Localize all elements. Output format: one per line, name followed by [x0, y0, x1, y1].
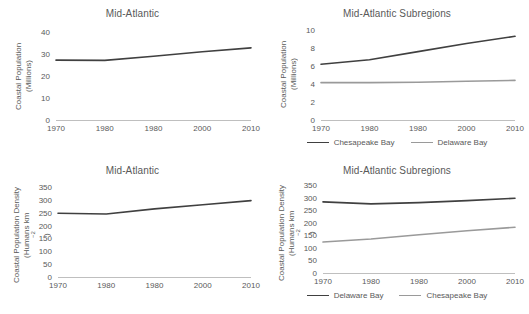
y-tick-label: 200: [304, 218, 317, 227]
series-lines: [321, 30, 515, 120]
series-line: [323, 198, 515, 204]
x-tick-label: 1980: [146, 281, 164, 290]
legend: Chesapeake BayDelaware Bay: [265, 138, 529, 147]
x-tick-label: 1980: [361, 124, 379, 133]
y-tick-label: 8: [311, 44, 315, 53]
plot-area: [323, 185, 515, 273]
y-tick-label: 250: [39, 208, 52, 217]
chart-grid: Mid-Atlantic Coastal Population (Million…: [0, 0, 529, 314]
y-axis-ticks: 050100150200250300350: [26, 187, 52, 277]
x-tick-label: 1970: [314, 277, 332, 286]
plot-area: [58, 187, 251, 277]
y-tick-label: 4: [311, 80, 315, 89]
y-tick-label: 250: [304, 206, 317, 215]
x-axis-line: [323, 273, 515, 274]
legend-swatch-icon: [307, 142, 329, 143]
panel-title: Mid-Atlantic Subregions: [265, 8, 529, 19]
plot-area: [56, 32, 251, 120]
y-tick-label: 150: [304, 231, 317, 240]
x-tick-label: 1970: [47, 124, 65, 133]
legend-item[interactable]: Chesapeake Bay: [307, 138, 395, 147]
series-lines: [56, 32, 251, 120]
y-tick-label: 50: [308, 256, 317, 265]
y-tick-label: 20: [41, 72, 50, 81]
x-tick-label: 2010: [242, 124, 260, 133]
y-tick-label: 300: [39, 195, 52, 204]
y-tick-label: 50: [43, 260, 52, 269]
panel-title: Mid-Atlantic: [0, 165, 265, 176]
y-tick-label: 350: [39, 183, 52, 192]
x-axis-line: [56, 120, 251, 121]
y-tick-label: 10: [306, 26, 315, 35]
legend-label: Delaware Bay: [334, 291, 384, 300]
x-tick-label: 2000: [194, 281, 212, 290]
x-tick-label: 1980: [97, 281, 115, 290]
series-line: [323, 227, 515, 242]
x-tick-label: 1970: [49, 281, 67, 290]
y-axis-ticks: 050100150200250300350: [291, 185, 317, 273]
plot-area: [321, 30, 515, 120]
legend-label: Chesapeake Bay: [426, 291, 487, 300]
y-tick-label: 2: [311, 98, 315, 107]
series-line: [56, 48, 251, 61]
y-axis-label-line1: Coastal Population Density: [12, 179, 22, 291]
legend-swatch-icon: [411, 142, 433, 143]
x-axis-line: [58, 277, 251, 278]
legend-item[interactable]: Chesapeake Bay: [399, 291, 487, 300]
series-line: [58, 201, 251, 214]
series-lines: [58, 187, 251, 277]
panel-top-right: Mid-Atlantic Subregions Coastal Populati…: [265, 0, 529, 157]
legend: Delaware BayChesapeake Bay: [265, 291, 529, 300]
panel-title: Mid-Atlantic Subregions: [265, 165, 529, 176]
legend-item[interactable]: Delaware Bay: [307, 291, 384, 300]
y-axis-ticks: 010203040: [28, 32, 50, 120]
panel-title: Mid-Atlantic: [0, 8, 265, 19]
y-axis-label-line1: Coastal Population Density: [277, 177, 287, 289]
x-tick-label: 1970: [312, 124, 330, 133]
y-axis-label-line1: Coastal Population: [279, 28, 289, 120]
y-tick-label: 40: [41, 28, 50, 37]
x-tick-label: 1980: [96, 124, 114, 133]
x-axis-line: [321, 120, 515, 121]
legend-label: Chesapeake Bay: [334, 138, 395, 147]
y-tick-label: 100: [39, 247, 52, 256]
x-tick-label: 2000: [458, 124, 476, 133]
series-line: [321, 36, 515, 64]
y-tick-label: 300: [304, 193, 317, 202]
series-line: [321, 80, 515, 82]
x-tick-label: 2000: [458, 277, 476, 286]
legend-label: Delaware Bay: [438, 138, 488, 147]
panel-bottom-right: Mid-Atlantic Subregions Coastal Populati…: [265, 157, 529, 314]
legend-swatch-icon: [399, 295, 421, 296]
panel-top-left: Mid-Atlantic Coastal Population (Million…: [0, 0, 265, 157]
x-tick-label: 1980: [410, 277, 428, 286]
y-tick-label: 6: [311, 62, 315, 71]
y-tick-label: 30: [41, 50, 50, 59]
y-tick-label: 10: [41, 94, 50, 103]
panel-bottom-left: Mid-Atlantic Coastal Population Density …: [0, 157, 265, 314]
series-lines: [323, 185, 515, 273]
y-axis-label-line1: Coastal Population: [14, 30, 24, 122]
x-tick-label: 1980: [409, 124, 427, 133]
legend-item[interactable]: Delaware Bay: [411, 138, 488, 147]
y-tick-label: 200: [39, 221, 52, 230]
x-tick-label: 1980: [362, 277, 380, 286]
y-tick-label: 350: [304, 181, 317, 190]
x-tick-label: 2000: [193, 124, 211, 133]
y-axis-ticks: 0246810: [293, 30, 315, 120]
y-tick-label: 100: [304, 243, 317, 252]
y-tick-label: 150: [39, 234, 52, 243]
x-tick-label: 1980: [145, 124, 163, 133]
x-tick-label: 2010: [242, 281, 260, 290]
x-tick-label: 2010: [506, 124, 524, 133]
x-tick-label: 2010: [506, 277, 524, 286]
legend-swatch-icon: [307, 295, 329, 296]
